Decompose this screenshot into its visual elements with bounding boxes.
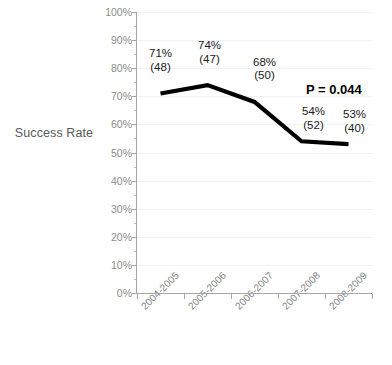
p-value-annotation: P = 0.044 (306, 82, 362, 97)
data-point-label: 53%(40) (343, 108, 366, 135)
data-point-percent: 71% (149, 47, 172, 61)
chart-container: Success Rate 100%90%80%70%60%50%40%30%20… (0, 0, 392, 365)
data-point-label: 74%(47) (198, 39, 221, 66)
data-point-percent: 68% (253, 56, 276, 70)
data-point-percent: 53% (343, 108, 366, 122)
data-point-label: 68%(50) (253, 56, 276, 83)
data-point-count: (40) (343, 122, 366, 136)
data-point-percent: 54% (302, 105, 325, 119)
success-rate-line (0, 0, 392, 365)
data-point-label: 54%(52) (302, 105, 325, 132)
data-point-count: (50) (253, 69, 276, 83)
data-point-percent: 74% (198, 39, 221, 53)
data-point-label: 71%(48) (149, 47, 172, 74)
data-point-count: (52) (302, 119, 325, 133)
data-point-count: (47) (198, 53, 221, 67)
data-point-count: (48) (149, 61, 172, 75)
